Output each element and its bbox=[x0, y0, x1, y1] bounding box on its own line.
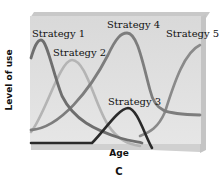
y-axis-label-text: Level of use bbox=[4, 49, 14, 110]
label-strategy-5: Strategy 5 bbox=[166, 28, 219, 39]
label-strategy-2: Strategy 2 bbox=[53, 47, 106, 58]
chart-panel: Strategy 1 Strategy 2 Strategy 4 Strateg… bbox=[0, 0, 224, 189]
x-axis-label: Age bbox=[0, 148, 224, 158]
panel-letter: C bbox=[0, 166, 224, 177]
y-axis-label: Level of use bbox=[2, 40, 16, 120]
label-strategy-3: Strategy 3 bbox=[108, 96, 161, 107]
label-strategy-4: Strategy 4 bbox=[107, 19, 160, 30]
overlapping-waves-figure: Strategy 1 Strategy 2 Strategy 4 Strateg… bbox=[0, 0, 224, 189]
label-strategy-1: Strategy 1 bbox=[32, 28, 85, 39]
